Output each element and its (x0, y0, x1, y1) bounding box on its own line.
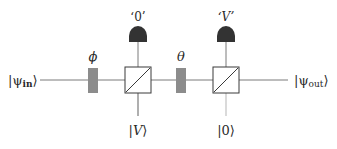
detector-2-icon (217, 26, 235, 42)
phase-shifter-phi (88, 68, 98, 93)
ancilla-2-label: |0⟩ (217, 123, 235, 138)
output-state-label: |ψout⟩ (294, 73, 329, 89)
detector-2-label: ‘V’ (218, 10, 235, 24)
input-state-label: |ψin⟩ (8, 73, 38, 89)
ancilla-1-label: |V⟩ (129, 123, 148, 138)
theta-label: θ (177, 49, 185, 64)
optical-circuit-diagram: |ψin⟩ |ψout⟩ ϕ θ ‘0’ ‘V’ |V⟩ |0⟩ (0, 0, 337, 149)
phase-shifter-theta (176, 68, 186, 93)
phi-label: ϕ (89, 49, 98, 64)
beam-splitter-1 (125, 67, 151, 93)
detector-1-label: ‘0’ (130, 10, 145, 24)
detector-1-icon (129, 26, 147, 42)
beam-splitter-2 (213, 67, 239, 93)
